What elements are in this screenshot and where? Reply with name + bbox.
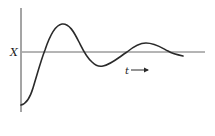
damped-curve [21, 24, 183, 105]
time-arrow-icon [131, 68, 149, 73]
time-label: t [125, 65, 130, 76]
x-axis-label: X [9, 46, 19, 59]
oscillation-diagram: X t [0, 0, 215, 136]
